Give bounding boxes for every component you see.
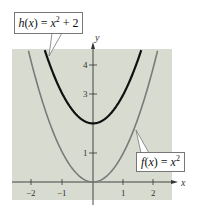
x-tick-label: 1 — [121, 188, 126, 198]
f-function-label: f(x) = x2 — [136, 152, 185, 172]
h-function-label: h(x) = x2 + 2 — [14, 12, 83, 34]
y-tick-label: 4 — [83, 60, 88, 70]
x-axis-arrow-icon — [171, 180, 178, 184]
y-axis-arrow-icon — [91, 42, 95, 49]
y-tick-label: 1 — [83, 148, 88, 158]
x-tick-label: −2 — [26, 188, 36, 198]
x-tick-label: 2 — [151, 188, 156, 198]
x-axis-label: x — [180, 177, 186, 188]
y-tick-label: 3 — [83, 89, 88, 99]
x-tick-label: −1 — [57, 188, 67, 198]
plot-background — [12, 49, 172, 200]
y-axis-label: y — [94, 32, 100, 43]
